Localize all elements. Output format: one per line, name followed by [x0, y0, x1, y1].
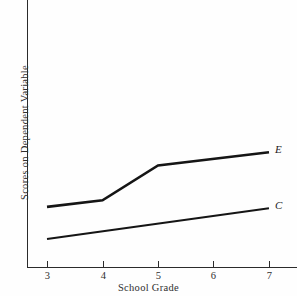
- series-label-e: E: [275, 143, 282, 155]
- x-tick-label-4: 4: [94, 270, 114, 281]
- series-line-c: [47, 208, 269, 239]
- chart-plot-area: [0, 0, 297, 296]
- series-line-e: [47, 152, 269, 207]
- y-axis-title: Scores on Dependent Variable: [19, 65, 30, 200]
- x-tick-label-5: 5: [149, 270, 169, 281]
- series-label-c: C: [275, 199, 282, 211]
- x-axis-title: School Grade: [0, 282, 297, 293]
- x-tick-label-3: 3: [38, 270, 58, 281]
- chart-figure: 3 4 5 6 7 School Grade Scores on Depende…: [0, 0, 297, 296]
- x-tick-label-6: 6: [204, 270, 224, 281]
- x-tick-label-7: 7: [260, 270, 280, 281]
